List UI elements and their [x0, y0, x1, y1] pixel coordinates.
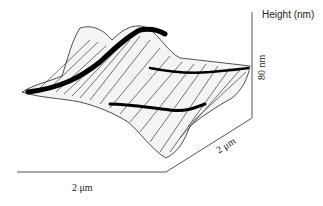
- z-axis-title: Height (nm): [262, 9, 314, 20]
- afm-surface-plot: [0, 0, 323, 206]
- afm-figure: Height (nm) 80 nm 2 μm 2 μm: [0, 0, 323, 206]
- z-scale-label: 80 nm: [256, 55, 267, 80]
- x-scale-label: 2 μm: [72, 182, 93, 193]
- surface-mesh: [22, 26, 250, 158]
